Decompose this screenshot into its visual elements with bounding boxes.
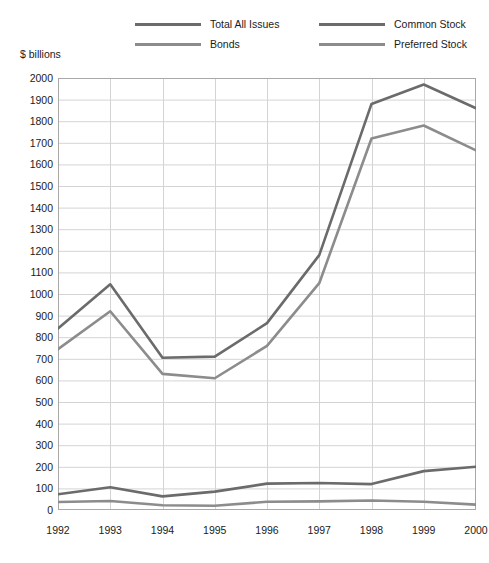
- x-axis-tick-label: 1999: [412, 524, 435, 536]
- legend-label-bonds: Bonds: [210, 38, 240, 50]
- legend-item-common-stock: Common Stock: [319, 16, 466, 32]
- x-axis-tick-labels: 199219931994199519961997199819992000: [58, 524, 476, 540]
- x-axis-tick-label: 1998: [360, 524, 383, 536]
- y-axis-tick-label: 500: [9, 397, 53, 407]
- y-axis-tick-label: 1500: [9, 181, 53, 191]
- x-axis-tick-label: 1995: [203, 524, 226, 536]
- legend-swatch-bonds: [135, 43, 201, 46]
- y-axis-tick-label: 1000: [9, 289, 53, 299]
- legend-label-preferred-stock: Preferred Stock: [394, 38, 467, 50]
- y-axis-tick-label: 900: [9, 311, 53, 321]
- y-axis-tick-label: 200: [9, 462, 53, 472]
- y-axis-tick-label: 400: [9, 419, 53, 429]
- y-axis-tick-label: 1600: [9, 159, 53, 169]
- legend-swatch-total-all-issues: [135, 23, 201, 26]
- y-axis-tick-label: 1900: [9, 95, 53, 105]
- legend-item-bonds: Bonds: [135, 36, 240, 52]
- y-axis-tick-label: 800: [9, 332, 53, 342]
- x-axis-tick-label: 1992: [46, 524, 69, 536]
- chart-legend: Total All Issues Bonds Common Stock Pref…: [135, 16, 475, 56]
- legend-swatch-common-stock: [319, 23, 385, 26]
- y-axis-tick-label: 100: [9, 483, 53, 493]
- y-axis-tick-label: 1300: [9, 224, 53, 234]
- legend-item-preferred-stock: Preferred Stock: [319, 36, 467, 52]
- y-axis-tick-label: 1700: [9, 138, 53, 148]
- y-axis-tick-label: 700: [9, 354, 53, 364]
- y-axis-tick-label: 1100: [9, 267, 53, 277]
- x-axis-tick-label: 1997: [308, 524, 331, 536]
- x-axis-tick-label: 1996: [255, 524, 278, 536]
- x-axis-tick-label: 2000: [464, 524, 487, 536]
- legend-item-total-all-issues: Total All Issues: [135, 16, 279, 32]
- y-axis-tick-labels: 0100200300400500600700800900100011001200…: [5, 78, 53, 510]
- legend-label-total-all-issues: Total All Issues: [210, 18, 279, 30]
- line-chart-svg: [58, 78, 476, 510]
- legend-label-common-stock: Common Stock: [394, 18, 466, 30]
- y-axis-tick-label: 300: [9, 440, 53, 450]
- plot-area: [58, 78, 476, 510]
- y-axis-tick-label: 1200: [9, 246, 53, 256]
- y-axis-tick-label: 600: [9, 375, 53, 385]
- legend-swatch-preferred-stock: [319, 43, 385, 46]
- x-axis-tick-label: 1993: [99, 524, 122, 536]
- x-axis-tick-label: 1994: [151, 524, 174, 536]
- grid-lines: [58, 78, 476, 510]
- y-axis-tick-label: 1800: [9, 116, 53, 126]
- y-axis-tick-label: 2000: [9, 73, 53, 83]
- y-axis-unit-label: $ billions: [20, 48, 61, 60]
- y-axis-tick-label: 0: [9, 505, 53, 515]
- y-axis-tick-label: 1400: [9, 203, 53, 213]
- chart-figure: Total All Issues Bonds Common Stock Pref…: [0, 0, 489, 563]
